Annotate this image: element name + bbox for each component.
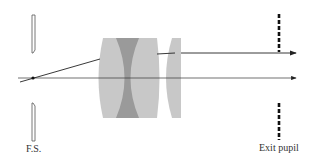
exit-pupil-label: Exit pupil [259, 142, 299, 153]
diagram-canvas [0, 0, 313, 163]
field-stop-label: F.S. [26, 143, 41, 154]
optics-diagram: F.S. Exit pupil [0, 0, 313, 163]
